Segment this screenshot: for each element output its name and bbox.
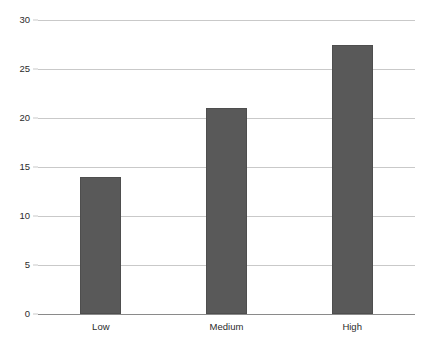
y-axis-tick-label: 25 (0, 64, 30, 74)
y-axis-tick-mark (33, 69, 38, 70)
y-axis-tick-label: 0 (0, 309, 30, 319)
x-axis-tick-label: High (342, 322, 362, 332)
y-axis-tick-label: 5 (0, 260, 30, 270)
y-axis-tick-label: 15 (0, 162, 30, 172)
x-axis-tick-label: Low (92, 322, 109, 332)
y-axis: 051015202530 (0, 20, 429, 314)
y-axis-tick-mark (33, 20, 38, 21)
y-axis-tick-mark (33, 314, 38, 315)
x-axis-tick-label: Medium (210, 322, 244, 332)
x-axis-line (38, 314, 415, 315)
y-axis-tick-label: 20 (0, 113, 30, 123)
y-axis-tick-label: 10 (0, 211, 30, 221)
y-axis-tick-mark (33, 118, 38, 119)
y-axis-tick-mark (33, 167, 38, 168)
bar-chart: 051015202530 LowMediumHigh (0, 0, 429, 342)
y-axis-tick-label: 30 (0, 15, 30, 25)
x-axis: LowMediumHigh (38, 322, 415, 338)
y-axis-tick-mark (33, 265, 38, 266)
y-axis-tick-mark (33, 216, 38, 217)
